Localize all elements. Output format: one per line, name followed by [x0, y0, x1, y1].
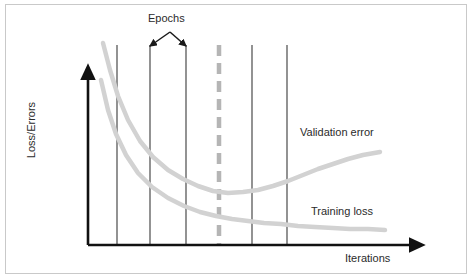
validation-error-label: Validation error — [300, 126, 374, 138]
epochs-arrow-left — [150, 32, 170, 46]
plot-canvas — [0, 0, 473, 280]
x-axis-label: Iterations — [345, 252, 390, 264]
y-axis-label: Loss/Errors — [25, 85, 37, 175]
validation-error-curve — [103, 43, 380, 193]
epochs-arrow-right — [170, 32, 186, 46]
epochs-annotation-label: Epochs — [148, 12, 185, 24]
figure-container: Loss/Errors Iterations Epochs Validation… — [0, 0, 473, 280]
training-loss-label: Training loss — [311, 205, 373, 217]
